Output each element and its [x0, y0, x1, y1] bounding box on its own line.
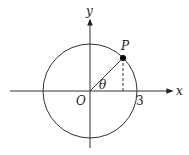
origin-label: O: [76, 94, 86, 108]
radius-segment-OP: [90, 58, 123, 91]
circle-diagram: y x O P θ 3: [0, 0, 189, 155]
radius-tick-label: 3: [136, 94, 144, 108]
point-P: [120, 55, 126, 61]
y-axis-label: y: [85, 4, 93, 18]
point-label: P: [120, 39, 130, 53]
x-axis-label: x: [176, 84, 183, 98]
angle-label: θ: [99, 78, 107, 92]
